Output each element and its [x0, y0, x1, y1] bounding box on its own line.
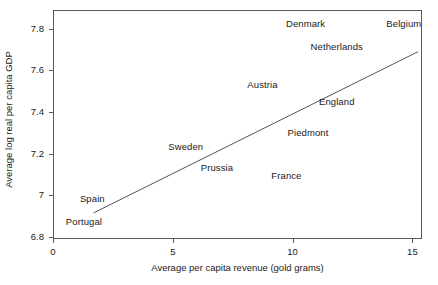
plot-area: DenmarkBelgiumNetherlandsAustriaEnglandP… — [53, 10, 422, 239]
scatter-plot-figure: Average log real per capita GDP 6.877.27… — [0, 0, 438, 285]
x-tick-label: 5 — [153, 246, 193, 257]
data-point-label: Belgium — [386, 18, 421, 29]
x-tick-mark — [173, 239, 174, 243]
y-tick-label: 7 — [12, 190, 44, 200]
data-point-label: Sweden — [168, 141, 203, 152]
data-point-label: Spain — [80, 193, 105, 204]
data-point-label: England — [319, 95, 355, 106]
data-point-label: Denmark — [286, 18, 325, 29]
y-tick-label: 7.2 — [12, 149, 44, 159]
x-axis-title: Average per capita revenue (gold grams) — [53, 262, 422, 273]
data-point-label: Piedmont — [288, 126, 329, 137]
y-tick-label: 6.8 — [12, 232, 44, 242]
data-point-label: Portugal — [66, 216, 102, 227]
x-tick-mark — [53, 239, 54, 243]
regression-line — [54, 11, 421, 238]
plot-inner: DenmarkBelgiumNetherlandsAustriaEnglandP… — [54, 11, 421, 238]
y-tick-label: 7.6 — [12, 65, 44, 75]
data-point-label: Netherlands — [311, 41, 363, 52]
data-point-label: France — [271, 170, 301, 181]
data-point-label: Prussia — [201, 162, 233, 173]
x-tick-label: 10 — [273, 246, 313, 257]
data-point-label: Austria — [247, 78, 277, 89]
x-tick-label: 15 — [392, 246, 432, 257]
x-tick-mark — [293, 239, 294, 243]
y-tick-label: 7.8 — [12, 24, 44, 34]
y-tick-label: 7.4 — [12, 107, 44, 117]
x-tick-mark — [412, 239, 413, 243]
x-tick-label: 0 — [33, 246, 73, 257]
